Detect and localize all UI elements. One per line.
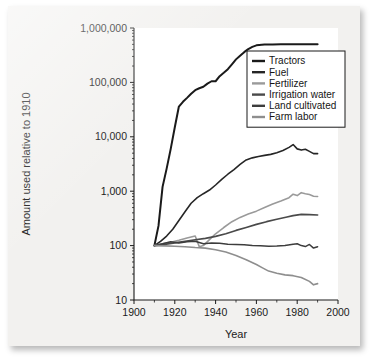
figure-card: 101001,00010,000100,0001,000,00019001920… <box>8 6 360 346</box>
x-tick-label: 1940 <box>204 306 228 318</box>
agriculture-inputs-line-chart: 101001,00010,000100,0001,000,00019001920… <box>8 6 360 346</box>
legend-label-tractors: Tractors <box>269 55 305 66</box>
y-axis-title: Amount used relative to 1910 <box>20 92 32 235</box>
legend-layer: TractorsFuelFertilizerIrrigation waterLa… <box>247 51 345 127</box>
x-tick-label: 1980 <box>286 306 310 318</box>
x-tick-label: 1920 <box>163 306 187 318</box>
x-tick-label: 1960 <box>245 306 269 318</box>
x-axis-title: Year <box>225 328 248 340</box>
y-tick-label: 100,000 <box>89 76 127 88</box>
legend-label-fertilizer: Fertilizer <box>269 78 308 89</box>
y-tick-label: 100 <box>109 239 127 251</box>
y-tick-label: 1,000 <box>101 185 127 197</box>
y-tick-label: 10,000 <box>95 130 127 142</box>
legend-label-fuel: Fuel <box>269 67 288 78</box>
legend-label-farm-labor: Farm labor <box>269 111 318 122</box>
x-tick-label: 1900 <box>122 306 146 318</box>
x-tick-label: 2000 <box>326 306 350 318</box>
legend-label-irrigation-water: Irrigation water <box>269 89 336 100</box>
legend-label-land-cultivated: Land cultivated <box>269 100 336 111</box>
y-tick-label: 10 <box>115 294 127 306</box>
y-tick-label: 1,000,000 <box>80 22 127 34</box>
